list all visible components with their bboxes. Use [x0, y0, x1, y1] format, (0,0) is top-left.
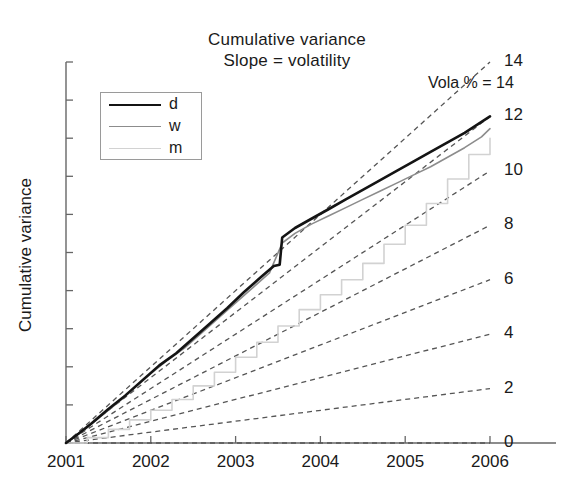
legend-label: m	[169, 139, 182, 157]
x-tick-label: 2002	[116, 452, 186, 472]
reference-line-label: 4	[504, 323, 513, 343]
legend-swatch-w	[109, 126, 161, 127]
reference-line-label: 14	[504, 51, 523, 71]
plot-area	[0, 0, 574, 497]
chart-figure: Cumulative variance Slope = volatility C…	[0, 0, 574, 497]
legend-label: w	[169, 117, 181, 135]
legend[interactable]: dwm	[100, 92, 202, 160]
y-axis-ticks	[66, 62, 73, 443]
reference-line-label: 10	[504, 160, 523, 180]
x-tick-label: 2006	[455, 452, 525, 472]
x-tick-label: 2005	[370, 452, 440, 472]
x-tick-label: 2004	[285, 452, 355, 472]
legend-label: d	[169, 95, 178, 113]
legend-swatch-d	[109, 104, 161, 106]
reference-line-label: 6	[504, 269, 513, 289]
reference-line-label: 0	[504, 432, 513, 452]
x-axis-ticks	[66, 436, 490, 443]
legend-swatch-m	[109, 148, 161, 149]
reference-line-label: 8	[504, 214, 513, 234]
legend-item-d[interactable]: d	[101, 94, 201, 116]
legend-item-m[interactable]: m	[101, 138, 201, 160]
x-tick-label: 2001	[31, 452, 101, 472]
reference-line-label: 12	[504, 105, 523, 125]
reference-line-label: 2	[504, 378, 513, 398]
legend-item-w[interactable]: w	[101, 116, 201, 138]
x-tick-label: 2003	[201, 452, 271, 472]
